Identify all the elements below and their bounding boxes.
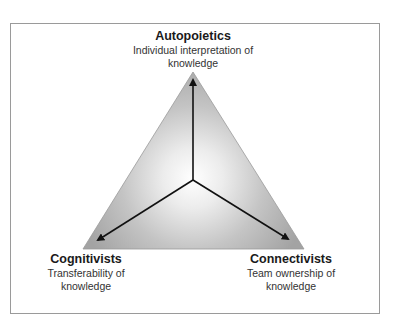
vertex-title: Autopoietics bbox=[113, 29, 273, 44]
vertex-description: Transferability of bbox=[16, 267, 156, 280]
vertex-description: Team ownership of bbox=[221, 267, 361, 280]
vertex-description: Individual interpretation of bbox=[113, 44, 273, 57]
vertex-description: knowledge bbox=[221, 280, 361, 293]
vertex-label-autopoietics: Autopoietics Individual interpretation o… bbox=[113, 29, 273, 70]
vertex-description: knowledge bbox=[16, 280, 156, 293]
vertex-label-cognitivists: Cognitivists Transferability of knowledg… bbox=[16, 252, 156, 293]
vertex-title: Connectivists bbox=[221, 252, 361, 267]
vertex-label-connectivists: Connectivists Team ownership of knowledg… bbox=[221, 252, 361, 293]
vertex-title: Cognitivists bbox=[16, 252, 156, 267]
vertex-description: knowledge bbox=[113, 57, 273, 70]
